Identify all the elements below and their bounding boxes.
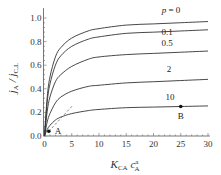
point-label: A <box>55 126 62 136</box>
y-tick-label: 0.4 <box>30 84 42 94</box>
x-tick-label: 10 <box>95 139 105 149</box>
x-tick-label: 25 <box>176 139 186 149</box>
y-tick-label: 0.6 <box>30 60 42 70</box>
curve-label: 0.1 <box>161 27 172 37</box>
curve-p-0.5 <box>45 51 209 136</box>
annotations: AB <box>47 105 184 137</box>
y-tick-label: 0.8 <box>30 37 42 47</box>
point-label: B <box>178 111 184 121</box>
y-tick-label: 0.2 <box>30 107 41 117</box>
x-tick-label: 30 <box>204 139 214 149</box>
chart: 0510152025300.00.20.40.60.81.0 p = 00.10… <box>0 0 221 175</box>
curve-label: 2 <box>167 64 172 74</box>
x-axis-title: KCA caA <box>110 158 140 173</box>
point-B <box>179 105 183 109</box>
y-tick-label: 1.0 <box>30 13 42 23</box>
point-A <box>47 129 51 133</box>
x-tick-label: 5 <box>70 139 75 149</box>
curve-labels: p = 00.10.5210 <box>161 5 181 102</box>
y-tick-label: 0.0 <box>30 131 42 141</box>
y-axis-title: jA / jC,L <box>6 63 20 95</box>
curve-label: p = 0 <box>161 5 181 15</box>
x-tick-label: 20 <box>149 139 159 149</box>
curve-label: 10 <box>166 92 176 102</box>
x-tick-label: 15 <box>122 139 132 149</box>
curve-label: 0.5 <box>161 38 173 48</box>
x-tick-label: 0 <box>42 139 47 149</box>
